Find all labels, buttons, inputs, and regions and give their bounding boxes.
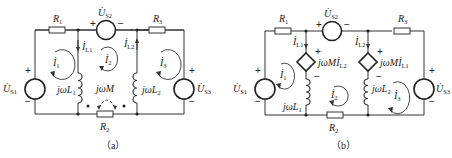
sign-dep2-plus: + <box>377 46 383 57</box>
figure-b: R1 R3 R2 U̇S2 U̇S1 U̇S3 İL1 İL2 İ1 İ2 İ3… <box>233 8 450 151</box>
label-i2: İ2 <box>104 54 112 66</box>
sign-dep2-minus: − <box>376 71 382 82</box>
label-mutual: jωM <box>94 83 115 94</box>
inductor-l1 <box>78 73 82 103</box>
label-r2: R2 <box>328 122 338 134</box>
sign-us2-minus: − <box>344 19 350 30</box>
label-l2: jωL2 <box>140 84 161 96</box>
label-i2: İ2 <box>330 89 338 101</box>
inductor-l1 <box>306 79 310 105</box>
label-i1: İ1 <box>52 57 60 69</box>
sign-us3-minus: − <box>189 96 195 107</box>
label-us2: U̇S2 <box>98 7 112 19</box>
label-dep2: jωMİL1 <box>378 57 409 69</box>
sign-dep1-plus: + <box>315 46 321 57</box>
label-l1: jωL1 <box>281 101 302 113</box>
caption-b: （b） <box>331 140 356 151</box>
resistor-r3 <box>149 27 165 33</box>
label-i3: İ3 <box>159 57 167 69</box>
sign-us1-plus: + <box>255 65 261 76</box>
sign-us2-minus: − <box>118 18 124 29</box>
inductor-l2 <box>133 73 137 103</box>
label-il1: İL1 <box>292 36 304 48</box>
label-r2: R2 <box>99 121 109 133</box>
label-us3: U̇S3 <box>197 83 211 95</box>
label-r3: R3 <box>397 13 407 25</box>
sign-us1-plus: + <box>25 65 31 76</box>
resistor-r2 <box>97 111 113 117</box>
caption-a: （a） <box>101 140 125 151</box>
label-il2: İL2 <box>354 36 366 48</box>
label-dep1: jωMİL2 <box>316 57 347 69</box>
label-us2: U̇S2 <box>324 8 338 20</box>
coupling-dot-l1 <box>87 105 90 108</box>
label-i3: İ3 <box>393 90 401 102</box>
label-us1: U̇S1 <box>3 83 17 95</box>
dependent-source-1 <box>297 53 315 71</box>
sign-us3-plus: + <box>189 65 195 76</box>
voltage-source-us2 <box>97 21 116 40</box>
sign-dep1-minus: − <box>314 71 320 82</box>
label-il1: İL1 <box>81 41 93 53</box>
voltage-source-us2 <box>323 22 342 41</box>
figure-a: R1 R3 R2 U̇S2 U̇S1 U̇S3 İL1 İL2 İ1 İ2 İ3… <box>3 7 211 151</box>
label-r3: R3 <box>152 13 162 25</box>
label-il2: İL2 <box>123 38 135 50</box>
sign-us2-plus: + <box>316 19 322 30</box>
sign-us2-plus: + <box>90 18 96 29</box>
circuit-diagrams: R1 R3 R2 U̇S2 U̇S1 U̇S3 İL1 İL2 İ1 İ2 İ3… <box>0 0 452 158</box>
label-i1: İ1 <box>279 69 287 81</box>
sign-us3-plus: + <box>429 65 435 76</box>
inductor-l2 <box>364 79 368 105</box>
label-r1: R1 <box>52 13 62 25</box>
resistor-r2 <box>327 112 343 118</box>
sign-us1-minus: − <box>255 96 261 107</box>
dependent-source-2 <box>359 53 377 71</box>
resistor-r1 <box>49 27 65 33</box>
sign-us1-minus: − <box>25 96 31 107</box>
label-us1: U̇S1 <box>233 83 247 95</box>
label-l2: jωL2 <box>370 83 391 95</box>
label-r1: R1 <box>278 13 288 25</box>
label-us3: U̇S3 <box>436 83 450 95</box>
resistor-r3 <box>394 28 410 34</box>
mutual-coupling-arc <box>99 100 115 108</box>
resistor-r1 <box>275 28 291 34</box>
coupling-dot-l2 <box>123 105 126 108</box>
label-l1: jωL1 <box>55 84 76 96</box>
sign-us3-minus: − <box>429 96 435 107</box>
